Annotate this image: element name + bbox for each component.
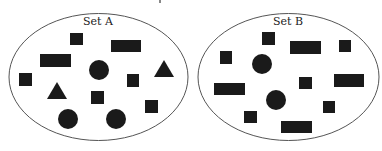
set-b-label: Set B: [273, 15, 303, 28]
set-a-circle: [58, 109, 78, 129]
set-b-rectangle: [334, 74, 364, 87]
set-b-rectangle: [214, 83, 245, 95]
set-a-rectangle: [40, 54, 71, 67]
set-a-triangle: [47, 82, 67, 99]
set-b-square: [262, 32, 275, 45]
set-diagram: Set A Set B: [0, 0, 382, 151]
set-a-circle: [106, 109, 126, 129]
set-b: Set B: [198, 14, 379, 141]
set-b-circle: [252, 54, 272, 74]
set-b-square: [323, 101, 335, 113]
set-b-square: [299, 77, 312, 89]
set-a-label: Set A: [83, 15, 114, 28]
set-b-square: [244, 111, 257, 123]
set-b-square: [339, 40, 351, 52]
set-a-rectangle: [111, 40, 141, 52]
set-b-rectangle: [290, 41, 321, 54]
set-b-circle: [266, 90, 286, 110]
set-a-square: [145, 100, 158, 113]
set-a-triangle: [154, 60, 174, 77]
set-b-rectangle: [281, 121, 312, 133]
set-a-square: [91, 91, 104, 104]
set-a-square: [127, 74, 139, 87]
set-a-circle: [89, 60, 109, 80]
cropped-text-fragment: [159, 0, 161, 3]
set-a: Set A: [9, 14, 188, 141]
set-a-square: [19, 73, 32, 86]
set-b-square: [220, 51, 232, 64]
set-a-square: [70, 33, 83, 45]
